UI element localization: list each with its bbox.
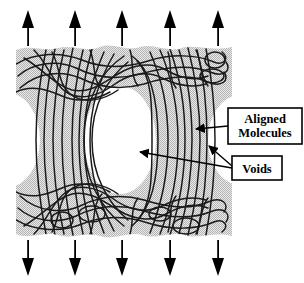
tension-arrow-up (116, 10, 128, 46)
label-aligned-molecules-line2: Molecules (238, 126, 292, 140)
tension-arrows-top (22, 10, 224, 46)
tension-arrow-up (212, 10, 224, 46)
tension-arrow-down (164, 240, 176, 276)
label-voids-line1: Voids (242, 162, 272, 176)
tension-arrow-down (69, 240, 81, 276)
tension-arrow-up (164, 10, 176, 46)
label-aligned-molecules[interactable]: Aligned Molecules (228, 108, 302, 144)
figure-root: Aligned Molecules Voids (0, 0, 304, 283)
tension-arrows-bottom (22, 240, 224, 276)
polymer-deformation-diagram: Aligned Molecules Voids (0, 0, 304, 283)
tension-arrow-down (116, 240, 128, 276)
tension-arrow-down (22, 240, 34, 276)
tension-arrow-down (212, 240, 224, 276)
label-voids[interactable]: Voids (232, 156, 282, 180)
tension-arrow-up (22, 10, 34, 46)
label-aligned-molecules-line1: Aligned (244, 112, 286, 126)
tension-arrow-up (69, 10, 81, 46)
